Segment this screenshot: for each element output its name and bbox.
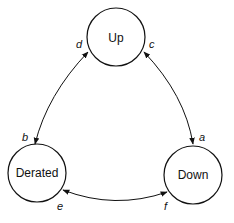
- edge-label-c: c: [149, 38, 155, 50]
- node-derated-label: Derated: [16, 166, 59, 180]
- node-derated: Derated: [8, 144, 66, 202]
- edge-label-f: f: [164, 200, 168, 212]
- edge-up-derated: [35, 52, 88, 144]
- diagram-canvas: Up Derated Down d c b a e f: [0, 0, 234, 223]
- node-up: Up: [87, 8, 145, 66]
- edge-label-a: a: [199, 131, 205, 143]
- state-diagram: Up Derated Down d c b a e f: [0, 0, 234, 223]
- edge-label-d: d: [76, 38, 83, 50]
- edge-derated-down: [63, 190, 167, 201]
- node-up-label: Up: [108, 31, 124, 45]
- node-down-label: Down: [178, 168, 209, 182]
- edge-up-down: [144, 52, 193, 144]
- node-down: Down: [164, 146, 222, 204]
- edge-label-e: e: [57, 200, 63, 212]
- edge-label-b: b: [22, 131, 28, 143]
